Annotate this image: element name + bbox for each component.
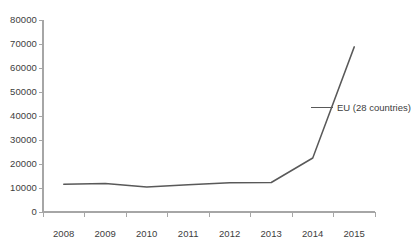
- chart-legend: EU (28 countries): [311, 100, 411, 114]
- x-tick-label: 2015: [334, 228, 376, 246]
- x-tick-label: 2008: [43, 228, 85, 246]
- line-chart: 80000 70000 60000 50000 40000 30000 2000…: [0, 0, 414, 251]
- x-tick-label: 2013: [251, 228, 293, 246]
- x-tick-label: 2012: [209, 228, 251, 246]
- plot-area: [0, 0, 414, 251]
- legend-line-swatch: [311, 107, 333, 108]
- data-series-line: [64, 47, 355, 187]
- x-tick-label: 2010: [126, 228, 168, 246]
- x-axis-tick-labels: 2008 2009 2010 2011 2012 2013 2014 2015: [43, 228, 375, 246]
- x-tick-label: 2009: [85, 228, 127, 246]
- x-axis: [43, 212, 375, 217]
- y-axis: [39, 20, 43, 212]
- x-tick-label: 2011: [168, 228, 210, 246]
- x-tick-label: 2014: [292, 228, 334, 246]
- legend-label: EU (28 countries): [337, 102, 411, 113]
